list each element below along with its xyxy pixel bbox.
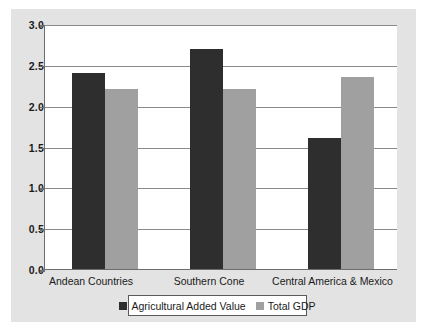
legend-entry-agricultural-added-value: Agricultural Added Value <box>119 300 245 312</box>
plot-area <box>44 25 397 270</box>
gridline <box>45 25 397 26</box>
legend-swatch-icon <box>119 302 127 310</box>
y-axis: 3.0 2.5 2.0 1.5 1.0 0.5 0.0 <box>6 25 44 270</box>
bar-gdp-andean <box>105 89 138 269</box>
legend-label: Agricultural Added Value <box>131 300 245 312</box>
y-tick-label: 1.5 <box>10 142 44 154</box>
legend-label: Total GDP <box>268 300 316 312</box>
bar-agricultural-andean <box>72 73 105 269</box>
x-tick-label-andean: Andean Countries <box>36 275 146 287</box>
y-tick-label: 1.0 <box>10 182 44 194</box>
bar-agricultural-central-america <box>308 138 341 269</box>
chart-legend: Agricultural Added Value Total GDP <box>128 295 307 316</box>
x-tick-label-southern-cone: Southern Cone <box>154 275 264 287</box>
y-tick-mark <box>40 270 45 272</box>
legend-entry-total-gdp: Total GDP <box>256 300 316 312</box>
bar-gdp-central-america <box>341 77 374 269</box>
y-tick-label: 0.5 <box>10 223 44 235</box>
x-tick-label-central-america: Central America & Mexico <box>260 275 405 287</box>
y-tick-label: 2.5 <box>10 60 44 72</box>
bar-gdp-southern-cone <box>223 89 256 269</box>
bar-agricultural-southern-cone <box>190 49 223 270</box>
y-tick-label: 3.0 <box>10 19 44 31</box>
y-tick-label: 2.0 <box>10 101 44 113</box>
chart-card: 3.0 2.5 2.0 1.5 1.0 0.5 0.0 Andean Count… <box>11 9 416 322</box>
legend-swatch-icon <box>256 302 264 310</box>
